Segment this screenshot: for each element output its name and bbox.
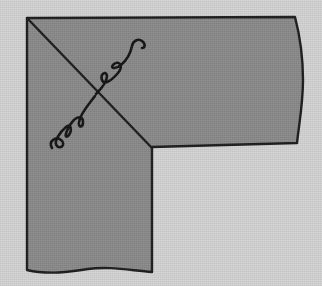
figure-canvas	[0, 0, 322, 286]
diagram-svg	[0, 0, 322, 286]
